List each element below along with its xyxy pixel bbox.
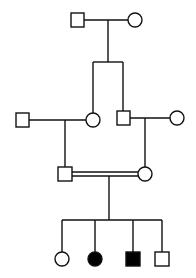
- individual-II-2-female: [86, 113, 100, 127]
- individual-I-1-male: [71, 13, 84, 27]
- individual-IV-4-male-unaffected: [155, 252, 169, 266]
- individual-III-2-female: [138, 167, 152, 181]
- individual-II-1-male: [16, 113, 29, 127]
- individual-III-1-male: [58, 167, 72, 181]
- individual-IV-3-male-affected: [126, 252, 140, 266]
- individual-I-2-female: [128, 13, 142, 27]
- individual-IV-1-female-unaffected: [55, 252, 69, 266]
- individual-IV-2-female-affected: [88, 252, 102, 266]
- pedigree-chart: [0, 0, 196, 278]
- individual-II-3-male: [117, 111, 130, 125]
- individual-II-4-female: [170, 111, 184, 125]
